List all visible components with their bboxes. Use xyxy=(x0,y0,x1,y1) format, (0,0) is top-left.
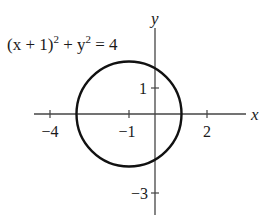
x-tick-label-neg4: −4 xyxy=(41,123,58,140)
circle-graph: x y −4 −1 2 1 −3 (x + 1)2 + y2 = 4 xyxy=(0,0,272,215)
x-tick-label-2: 2 xyxy=(203,123,211,140)
y-axis-label: y xyxy=(149,9,159,28)
y-tick-label-1: 1 xyxy=(139,80,147,97)
y-tick-label-neg3: −3 xyxy=(131,185,148,202)
circle-equation: (x + 1)2 + y2 = 4 xyxy=(7,33,118,54)
x-axis-label: x xyxy=(250,105,259,124)
x-tick-label-neg1: −1 xyxy=(118,123,135,140)
